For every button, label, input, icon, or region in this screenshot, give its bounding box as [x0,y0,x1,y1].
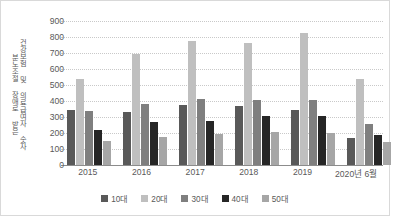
bar[interactable] [309,100,317,165]
legend-swatch-icon [141,195,148,202]
bar[interactable] [271,132,279,165]
x-axis-tick-label: 2015 [61,167,115,181]
bar[interactable] [132,54,140,165]
x-axis-tick-label: 2018 [222,167,276,181]
y-axis-title-line-2: 분노조절 장애로 받은 [10,54,18,135]
bar[interactable] [318,116,326,165]
x-axis-tick-label: 2016 [115,167,169,181]
bar[interactable] [262,116,270,165]
legend-swatch-icon [101,195,108,202]
x-axis-tick-label: 2017 [168,167,222,181]
bar[interactable] [374,135,382,165]
bar[interactable] [85,111,93,165]
y-axis-tick-label: 600 [20,64,64,74]
y-axis-tick-label: 500 [20,80,64,90]
axis-line-zero [61,165,383,166]
bar[interactable] [383,142,391,165]
legend: 10대20대30대40대50대 [1,191,389,205]
y-axis-tick-label: 0 [20,160,64,170]
bar-group [117,21,173,165]
bar[interactable] [356,79,364,165]
y-axis-tick-label: 200 [20,128,64,138]
bar[interactable] [244,43,252,165]
bar-group [61,21,117,165]
bar[interactable] [103,141,111,165]
bar[interactable] [215,134,223,165]
y-axis-tick-label: 900 [20,16,64,26]
bar[interactable] [327,133,335,165]
y-axis-tick-label: 400 [20,96,64,106]
bar[interactable] [253,100,261,165]
x-axis-tick-label: 2019 [276,167,330,181]
legend-label: 50대 [272,192,289,204]
legend-label: 30대 [191,192,208,204]
legend-swatch-icon [181,195,188,202]
bar[interactable] [159,137,167,165]
bar-group [341,21,395,165]
x-axis-tick-labels: 201520162017201820192020년 6월 [61,167,383,181]
bar[interactable] [141,104,149,165]
legend-item[interactable]: 20대 [141,192,168,204]
legend-swatch-icon [222,195,229,202]
legend-item[interactable]: 40대 [222,192,249,204]
bar[interactable] [347,138,355,165]
y-axis-tick-label: 100 [20,144,64,154]
bar[interactable] [188,41,196,165]
bar[interactable] [123,112,131,165]
bar[interactable] [291,110,299,165]
bar[interactable] [235,106,243,165]
bar[interactable] [76,79,84,165]
bar[interactable] [179,105,187,165]
bar-group [173,21,229,165]
legend-item[interactable]: 50대 [262,192,289,204]
bar[interactable] [197,99,205,165]
y-axis-tick-label: 700 [20,48,64,58]
legend-item[interactable]: 30대 [181,192,208,204]
legend-item[interactable]: 10대 [101,192,128,204]
y-axis-tick-label: 300 [20,112,64,122]
plot-area [61,21,383,165]
bar[interactable] [67,110,75,165]
x-axis-tick-label: 2020년 6월 [329,167,383,181]
bar-group [229,21,285,165]
bar-group [285,21,341,165]
legend-label: 10대 [111,192,128,204]
legend-label: 20대 [151,192,168,204]
bar[interactable] [150,122,158,165]
bar[interactable] [206,121,214,165]
legend-swatch-icon [262,195,269,202]
bar-groups [61,21,383,165]
legend-label: 40대 [232,192,249,204]
y-axis-tick-label: 800 [20,32,64,42]
bar[interactable] [94,130,102,165]
bar[interactable] [300,33,308,165]
bar[interactable] [365,124,373,165]
